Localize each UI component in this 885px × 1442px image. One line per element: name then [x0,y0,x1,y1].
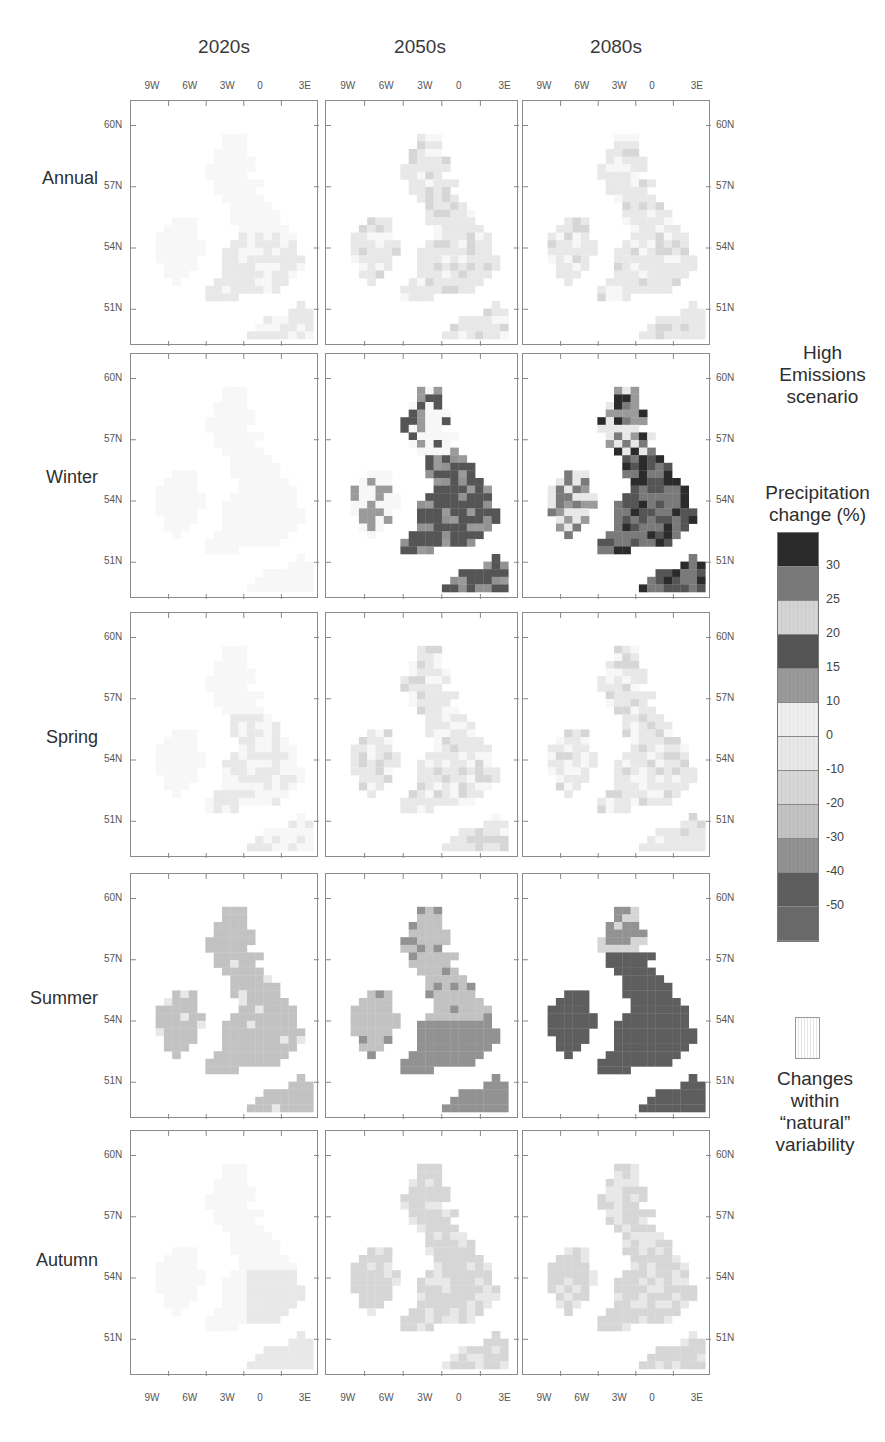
colorbar-band [778,737,818,771]
x-tick: 3E [299,1392,311,1403]
y-tick-right: 57N [716,433,734,444]
x-tick: 9W [537,80,552,91]
natural-line: “natural” [755,1112,875,1134]
row-label-spring: Spring [0,727,98,748]
scenario-line: scenario [760,386,885,408]
uk-map [523,613,711,858]
y-tick-right: 51N [716,1332,734,1343]
x-tick: 9W [145,1392,160,1403]
y-tick-right: 51N [716,814,734,825]
x-tick: 0 [649,80,655,91]
uk-map [523,101,711,346]
x-tick: 3W [220,1392,235,1403]
x-tick: 3E [691,80,703,91]
colorbar-tick-label: 0 [826,728,833,742]
natural-line: variability [755,1134,875,1156]
map-panel-spring-2050s [325,612,518,857]
colorbar-tick-label: 30 [826,558,840,572]
colorbar-band [778,601,818,635]
y-tick-right: 54N [716,494,734,505]
y-tick-left: 60N [104,372,122,383]
y-tick-left: 60N [104,1149,122,1160]
y-tick-right: 51N [716,555,734,566]
x-tick: 0 [649,1392,655,1403]
colorbar-tick-label: -40 [826,864,844,878]
column-title-2020s: 2020s [129,36,319,58]
colorbar-tick-label: -10 [826,762,844,776]
y-tick-left: 54N [104,1271,122,1282]
uk-map [523,354,711,599]
y-tick-left: 57N [104,433,122,444]
row-label-winter: Winter [0,467,98,488]
map-panel-autumn-2050s [325,1130,518,1375]
colorbar-tick-label: -50 [826,898,844,912]
y-tick-left: 54N [104,241,122,252]
uk-map [326,354,519,599]
colorbar-band [778,703,818,737]
uk-map [523,1131,711,1376]
y-tick-left: 57N [104,1210,122,1221]
y-tick-left: 54N [104,1014,122,1025]
x-tick: 0 [456,80,462,91]
y-tick-right: 54N [716,753,734,764]
map-panel-summer-2020s [130,873,318,1118]
natural-variability-swatch [795,1017,820,1059]
column-title-2050s: 2050s [325,36,515,58]
map-panel-autumn-2080s [522,1130,710,1375]
map-panel-winter-2080s [522,353,710,598]
y-tick-right: 60N [716,892,734,903]
x-tick: 9W [340,80,355,91]
y-tick-right: 51N [716,1075,734,1086]
colorbar-band [778,907,818,941]
colorbar-band [778,873,818,907]
scenario-line: High [760,342,885,364]
y-tick-right: 60N [716,1149,734,1160]
uk-map [326,613,519,858]
colorbar-band [778,567,818,601]
map-panel-annual-2020s [130,100,318,345]
x-tick: 6W [379,1392,394,1403]
uk-map [131,1131,319,1376]
x-tick: 3W [220,80,235,91]
y-tick-left: 54N [104,494,122,505]
x-tick: 6W [574,1392,589,1403]
colorbar-tick-label: 25 [826,592,840,606]
colorbar-band [778,771,818,805]
y-tick-right: 54N [716,1014,734,1025]
x-tick: 3E [498,1392,510,1403]
colorbar-band [778,635,818,669]
uk-map [326,101,519,346]
y-tick-left: 60N [104,119,122,130]
x-tick: 3E [498,80,510,91]
x-tick: 3W [417,1392,432,1403]
natural-line: within [755,1090,875,1112]
map-panel-spring-2080s [522,612,710,857]
colorbar-band [778,669,818,703]
map-panel-summer-2080s [522,873,710,1118]
x-tick: 3E [299,80,311,91]
x-tick: 0 [456,1392,462,1403]
colorbar [777,532,819,942]
y-tick-left: 51N [104,555,122,566]
colorbar-band [778,533,818,567]
x-tick: 0 [257,1392,263,1403]
scenario-title: High Emissions scenario [760,342,885,408]
y-tick-right: 57N [716,180,734,191]
y-tick-right: 60N [716,631,734,642]
scenario-line: Emissions [760,364,885,386]
y-tick-right: 51N [716,302,734,313]
uk-map [326,1131,519,1376]
colorbar-title: Precipitation change (%) [750,482,885,526]
colorbar-band [778,839,818,873]
colorbar-tick-label: 10 [826,694,840,708]
x-tick: 3W [612,80,627,91]
x-tick: 3E [691,1392,703,1403]
y-tick-left: 51N [104,302,122,313]
row-label-annual: Annual [0,168,98,189]
y-tick-left: 57N [104,953,122,964]
map-panel-autumn-2020s [130,1130,318,1375]
y-tick-right: 54N [716,1271,734,1282]
map-panel-summer-2050s [325,873,518,1118]
uk-map [326,874,519,1119]
y-tick-left: 54N [104,753,122,764]
